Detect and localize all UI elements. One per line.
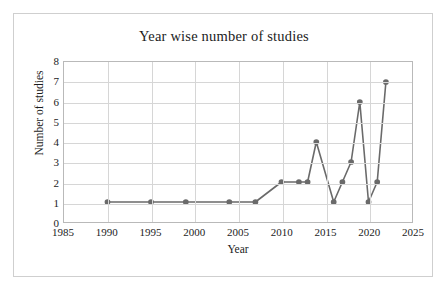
gridline-horizontal <box>64 82 412 83</box>
y-tick-label: 8 <box>39 55 59 67</box>
chart-title: Year wise number of studies <box>14 28 434 45</box>
x-tick-label: 2020 <box>347 226 391 238</box>
y-axis-ticks: 012345678 <box>36 61 59 223</box>
x-tick-label: 2015 <box>304 226 348 238</box>
gridline-vertical <box>152 62 153 222</box>
chart-frame: Year wise number of studies Number of st… <box>13 13 433 277</box>
plot-area <box>63 61 413 223</box>
x-tick-label: 2000 <box>172 226 216 238</box>
y-tick-label: 1 <box>39 197 59 209</box>
x-tick-label: 2025 <box>391 226 435 238</box>
gridline-vertical <box>327 62 328 222</box>
y-tick-label: 2 <box>39 177 59 189</box>
y-tick-label: 3 <box>39 156 59 168</box>
x-tick-label: 1985 <box>41 226 85 238</box>
data-series-line <box>64 62 412 222</box>
gridline-vertical <box>195 62 196 222</box>
gridline-horizontal <box>64 123 412 124</box>
x-tick-label: 2005 <box>216 226 260 238</box>
chart-figure: Year wise number of studies Number of st… <box>0 0 447 288</box>
y-tick-label: 7 <box>39 75 59 87</box>
x-tick-label: 1990 <box>85 226 129 238</box>
x-axis-label: Year <box>63 243 413 255</box>
gridline-horizontal <box>64 143 412 144</box>
x-tick-label: 1995 <box>129 226 173 238</box>
gridline-horizontal <box>64 103 412 104</box>
x-tick-label: 2010 <box>260 226 304 238</box>
gridline-horizontal <box>64 204 412 205</box>
x-axis-ticks: 198519901995200020052010201520202025 <box>63 226 413 244</box>
gridline-vertical <box>370 62 371 222</box>
gridline-horizontal <box>64 163 412 164</box>
gridline-horizontal <box>64 184 412 185</box>
y-tick-label: 4 <box>39 136 59 148</box>
gridline-vertical <box>239 62 240 222</box>
gridline-vertical <box>283 62 284 222</box>
y-tick-label: 5 <box>39 116 59 128</box>
y-tick-label: 6 <box>39 96 59 108</box>
data-point-marker <box>313 139 319 145</box>
gridline-vertical <box>108 62 109 222</box>
